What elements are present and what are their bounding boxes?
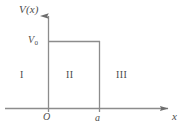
x-axis-label: x [172,111,177,122]
figure-canvas [0,0,186,132]
origin-label: O [43,112,50,122]
x-tick-label-a: a [95,113,100,123]
region-label-1: I [20,70,24,80]
y-tick-label-v0-subscript: 0 [34,39,38,47]
y-axis-label: V(x) [19,4,39,15]
potential-barrier-figure: V(x) x V0 O a I II III [0,0,186,132]
region-label-3: III [116,70,127,80]
region-label-2: II [66,70,73,80]
y-tick-label-v0: V0 [28,35,38,45]
